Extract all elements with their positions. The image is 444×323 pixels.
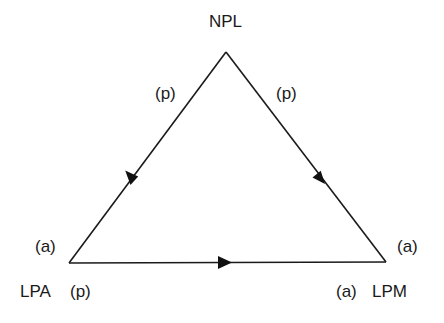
- annotation-right-lower: (a): [336, 282, 357, 302]
- annotation-left-upper: (a): [35, 237, 56, 257]
- arrow-icon: [313, 171, 326, 184]
- annotation-top-left-edge: (p): [155, 84, 176, 104]
- annotation-left-lower: (p): [70, 282, 91, 302]
- annotation-right-upper: (a): [397, 237, 418, 257]
- edge-lpa-to-lpm: [69, 256, 386, 269]
- annotation-top-right-edge: (p): [276, 84, 297, 104]
- arrow-icon: [218, 256, 232, 269]
- triangle-diagram: [0, 0, 444, 323]
- edge-npl-to-lpm: [226, 52, 386, 262]
- node-label-npl: NPL: [209, 12, 242, 32]
- edge-npl-to-lpa: [69, 52, 226, 263]
- node-label-lpa: LPA: [20, 282, 51, 302]
- node-label-lpm: LPM: [372, 282, 407, 302]
